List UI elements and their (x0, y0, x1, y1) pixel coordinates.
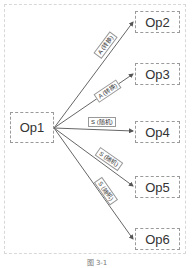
node-op3: Op3 (135, 63, 180, 85)
edge-op1-op4 (54, 128, 133, 131)
node-op2: Op2 (135, 11, 180, 33)
node-op4: Op4 (135, 121, 180, 143)
edge-op1-op2 (54, 22, 133, 128)
node-op5: Op5 (135, 176, 180, 198)
figure-caption: 图 3-1 (0, 257, 194, 267)
edge-op1-op5 (54, 128, 133, 186)
node-op6: Op6 (135, 228, 180, 250)
edge-label-op4: S (随机) (88, 117, 116, 127)
node-op1: Op1 (10, 112, 54, 143)
